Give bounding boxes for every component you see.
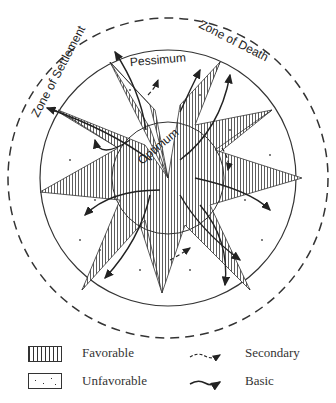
favorable-label: Favorable (82, 345, 134, 361)
secondary-label: Secondary (245, 345, 300, 361)
favorable-swatch (28, 346, 62, 362)
basic-label: Basic (245, 373, 274, 389)
unfavorable-swatch (28, 373, 62, 389)
zone-diagram: Zone of Settlement Zone of Death Pessimu… (0, 0, 336, 403)
unfavorable-label: Unfavorable (82, 373, 147, 389)
zone-of-death-label: Zone of Death (197, 17, 271, 64)
zone-of-settlement-label: Zone of Settlement (28, 23, 88, 120)
